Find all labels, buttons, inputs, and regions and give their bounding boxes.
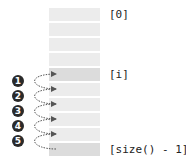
arrow-icon (35, 89, 56, 104)
step-badge-3: 3 (12, 105, 24, 117)
step-badge-4: 4 (12, 120, 24, 132)
arrow-icon (35, 119, 56, 134)
step-badge-5: 5 (12, 135, 24, 147)
arrow-icon (35, 134, 56, 149)
arrow-icon (35, 104, 56, 119)
step-badge-2: 2 (12, 90, 24, 102)
shift-arrows (0, 0, 186, 162)
arrow-icon (35, 74, 56, 89)
step-badge-1: 1 (12, 75, 24, 87)
